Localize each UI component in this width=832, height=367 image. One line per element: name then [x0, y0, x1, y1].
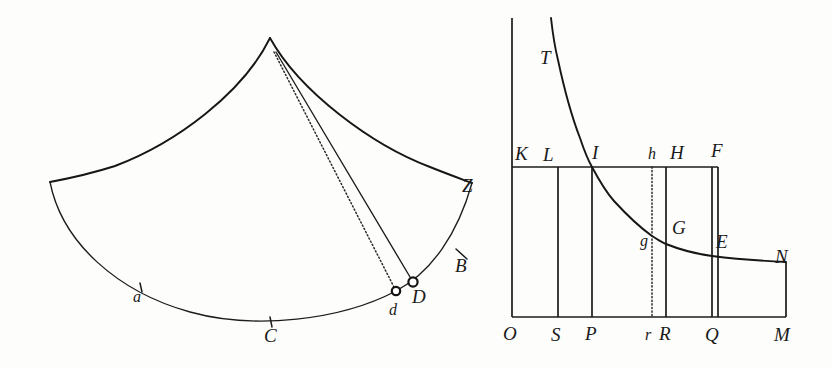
- label-P: P: [584, 323, 597, 344]
- radius-line-to-d: [274, 52, 396, 291]
- label-g: g: [640, 232, 648, 250]
- label-Z: Z: [462, 175, 473, 196]
- label-h: h: [648, 145, 656, 162]
- label-M: M: [773, 324, 791, 345]
- label-B: B: [455, 255, 467, 276]
- label-R: R: [658, 323, 671, 344]
- label-L: L: [542, 144, 554, 165]
- arc-base-sweep: [50, 182, 472, 321]
- label-r: r: [645, 326, 652, 343]
- label-F: F: [710, 140, 723, 161]
- engraving-plate: a C d D B Z T K: [0, 0, 832, 367]
- figures-canvas: a C d D B Z T K: [0, 0, 832, 367]
- arc-apex-to-z-corner: [270, 38, 472, 183]
- label-T: T: [540, 47, 552, 68]
- label-Q: Q: [705, 324, 719, 345]
- label-D: D: [411, 286, 426, 307]
- hyperbola-curve: [551, 18, 786, 262]
- label-d: d: [389, 301, 398, 318]
- label-O: O: [503, 323, 517, 344]
- arc-apex-to-left-corner: [50, 38, 270, 182]
- label-G: G: [672, 217, 686, 238]
- label-S: S: [551, 324, 561, 345]
- point-marker-d: [392, 287, 400, 295]
- left-figure-group: a C d D B Z: [50, 38, 473, 346]
- label-H: H: [669, 142, 685, 163]
- label-I: I: [591, 142, 600, 163]
- label-E: E: [715, 231, 728, 252]
- label-a: a: [133, 288, 141, 305]
- label-N: N: [774, 246, 789, 267]
- radius-line-to-D: [276, 52, 413, 282]
- right-figure-group: T K L I h H F g G E N O S P r R Q M: [503, 18, 791, 345]
- label-C: C: [264, 325, 277, 346]
- label-K: K: [514, 143, 529, 164]
